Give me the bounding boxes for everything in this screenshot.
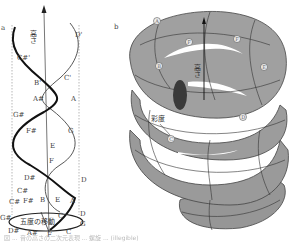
label-a-low: A (69, 197, 76, 205)
label-g: G (68, 127, 74, 135)
svg-text:E: E (262, 64, 266, 70)
label-f-sharp: F# (26, 127, 37, 135)
axis-arrow-icon (42, 5, 47, 13)
svg-text:F: F (187, 39, 191, 45)
panel-b-label: b (114, 23, 119, 31)
height-axis-label: 高さ (29, 29, 38, 45)
chroma-label: 彩度 (151, 114, 165, 123)
label-b-prime: B' (34, 79, 41, 87)
label-b-low: B (40, 196, 45, 204)
fifths-circle-label: 五度の移動 (20, 217, 55, 226)
svg-text:F: F (235, 36, 239, 42)
label-d: D (81, 176, 87, 184)
label-f-sharp-low: F# (23, 197, 34, 205)
label-d-base: D (80, 210, 86, 218)
label-d-prime: D' (75, 31, 83, 39)
label-g-base: G (80, 220, 86, 228)
label-a: A (70, 95, 77, 103)
label-e-low: E (55, 196, 60, 204)
svg-text:D: D (241, 114, 245, 120)
svg-text:C: C (169, 136, 173, 142)
panel-b: b 高さ 彩度 (114, 11, 288, 230)
panel-a-label: a (1, 24, 5, 32)
label-d-sharp: D# (24, 174, 36, 182)
height-axis-b-label: 高さ (193, 63, 202, 79)
label-g-sharp-base: G# (0, 214, 12, 222)
panel-a: a 高さ 五度の移動 D' C#' C' B' A# A G# F# G E F (0, 5, 87, 239)
label-e: E (50, 142, 55, 150)
figure-caption: 図 ... 音の高さの二次元表現 ... 螺旋 ... (illegible) (4, 233, 294, 242)
figure-canvas: a 高さ 五度の移動 D' C#' C' B' A# A G# F# G E F (0, 0, 296, 242)
label-f: F (49, 157, 54, 165)
label-c-prime: C' (64, 74, 71, 82)
label-g-sharp: G# (13, 111, 25, 119)
chroma-ellipse (173, 80, 187, 110)
label-c-sharp-top: C#' (17, 54, 30, 62)
label-c-base-inner: C (58, 212, 63, 220)
svg-text:A: A (154, 18, 159, 24)
svg-text:B: B (157, 63, 161, 69)
label-a-sharp: A# (32, 95, 44, 103)
label-c-sharp-mid: C# (17, 187, 28, 195)
label-c-sharp-low: C# (9, 198, 20, 206)
